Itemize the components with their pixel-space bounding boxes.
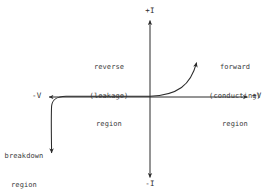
negative-current-axis-label: -I — [142, 179, 158, 188]
positive-current-axis-label: +I — [142, 6, 158, 15]
forward-region-line-1: forward — [202, 63, 268, 73]
iv-curve-diagram: +I -I -V +V reverse (leakage) region for… — [0, 0, 271, 192]
forward-region-line-2: (conducting) — [202, 92, 268, 102]
forward-region-label: forward (conducting) region — [202, 44, 268, 149]
reverse-region-line-2: (leakage) — [78, 92, 140, 102]
breakdown-region-line-2: region — [2, 181, 46, 191]
reverse-region-label: reverse (leakage) region — [78, 44, 140, 149]
breakdown-region-label: breakdown region — [2, 133, 46, 192]
forward-curve — [150, 63, 197, 97]
reverse-region-line-3: region — [78, 120, 140, 130]
reverse-region-line-1: reverse — [78, 63, 140, 73]
negative-voltage-axis-label: -V — [32, 91, 46, 100]
breakdown-region-line-1: breakdown — [2, 152, 46, 162]
forward-region-line-3: region — [202, 120, 268, 130]
